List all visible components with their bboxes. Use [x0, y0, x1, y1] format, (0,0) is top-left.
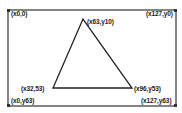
corner-marker-top-left [7, 9, 10, 12]
corner-marker-bottom-left [7, 104, 10, 107]
label-bottom-left-corner: (x0,y63) [11, 98, 34, 105]
label-triangle-bottom-left: (x32,53) [21, 86, 44, 93]
label-top-left-corner: (x0,0) [11, 11, 27, 18]
triangle [53, 19, 132, 88]
label-top-right-corner: (x127,y0) [146, 11, 173, 18]
label-bottom-right-corner: (x127,y63) [141, 98, 171, 105]
corner-marker-top-right [174, 9, 177, 12]
label-triangle-bottom-right: (x96,y53) [134, 86, 161, 93]
label-triangle-apex: (x63,y10) [87, 19, 114, 26]
corner-marker-bottom-right [174, 104, 177, 107]
